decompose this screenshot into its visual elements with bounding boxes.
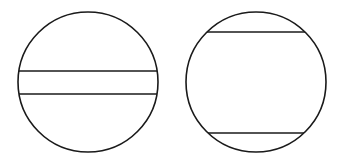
diagram-canvas <box>0 0 346 167</box>
circle-with-outer-chords <box>186 12 326 152</box>
circle-with-central-chords <box>18 12 158 152</box>
circle-outline <box>186 12 326 152</box>
circle-outline <box>18 12 158 152</box>
